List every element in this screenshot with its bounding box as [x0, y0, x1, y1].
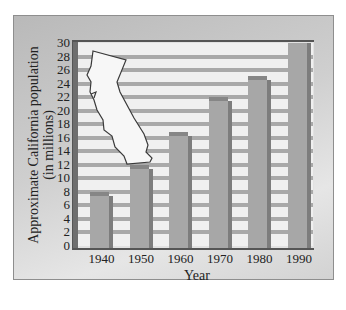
- y-tick-label: 8: [48, 185, 70, 198]
- bar-1990: [288, 43, 307, 248]
- bar-top: [209, 97, 228, 101]
- bar-side: [109, 196, 113, 248]
- x-tick-label: 1950: [121, 251, 161, 267]
- bar-side: [149, 169, 153, 248]
- y-tick-label: 14: [48, 144, 70, 157]
- bar-side: [188, 136, 192, 248]
- x-tick-label: 1940: [82, 251, 122, 267]
- bar-side: [228, 101, 232, 248]
- x-tick-label: 1970: [200, 251, 240, 267]
- y-tick-label: 22: [48, 90, 70, 103]
- gridline: [78, 176, 313, 180]
- bar-top: [90, 192, 109, 196]
- california-map-icon: [82, 48, 157, 166]
- y-tick-label: 0: [48, 239, 70, 252]
- y-tick-label: 6: [48, 198, 70, 211]
- y-tick-label: 10: [48, 171, 70, 184]
- y-tick-label: 12: [48, 158, 70, 171]
- y-tick-label: 16: [48, 131, 70, 144]
- bar-1940: [90, 196, 109, 248]
- bar-side: [307, 43, 311, 248]
- x-tick-label: 1980: [240, 251, 280, 267]
- bar-1960: [169, 136, 188, 248]
- bar-1970: [209, 101, 228, 248]
- y-axis-wall: [73, 42, 78, 248]
- y-tick-label: 28: [48, 50, 70, 63]
- bar-1980: [248, 80, 267, 248]
- y-tick-label: 4: [48, 212, 70, 225]
- gridline: [78, 230, 313, 234]
- y-tick-label: 20: [48, 104, 70, 117]
- y-tick-label: 18: [48, 117, 70, 130]
- y-tick-label: 30: [48, 36, 70, 49]
- x-axis-label: Year: [172, 268, 222, 284]
- x-tick-label: 1990: [279, 251, 319, 267]
- y-axis-label-line-1: Approximate California population: [26, 46, 41, 244]
- gridline: [78, 203, 313, 207]
- gridline: [78, 190, 313, 194]
- bar-1950: [130, 169, 149, 248]
- gridline: [78, 217, 313, 221]
- bar-top: [130, 165, 149, 169]
- y-tick-label: 26: [48, 63, 70, 76]
- y-tick-label: 24: [48, 77, 70, 90]
- y-tick-label: 2: [48, 225, 70, 238]
- bar-top: [248, 76, 267, 80]
- bar-top: [169, 132, 188, 136]
- x-tick-label: 1960: [161, 251, 201, 267]
- bar-side: [267, 80, 271, 248]
